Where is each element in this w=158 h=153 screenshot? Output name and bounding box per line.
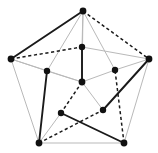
graph-vertex: inner right (112, 67, 118, 73)
graph-figure: outer topouter leftouter rightouter bott… (0, 0, 158, 153)
graph-vertex: inner bottom right (100, 107, 106, 113)
graph-canvas: outer topouter leftouter rightouter bott… (0, 0, 158, 153)
graph-vertex: outer right (146, 56, 153, 63)
graph-vertex: center (79, 79, 86, 86)
graph-vertex: outer top (80, 8, 87, 15)
graph-vertex: outer left (8, 56, 15, 63)
graph-vertex: inner left (44, 68, 50, 74)
graph-vertex: inner bottom left (58, 110, 64, 116)
graph-vertex: outer bottom right (121, 140, 128, 147)
graph-vertex: inner top (79, 44, 85, 50)
graph-vertex: outer bottom left (36, 140, 43, 147)
